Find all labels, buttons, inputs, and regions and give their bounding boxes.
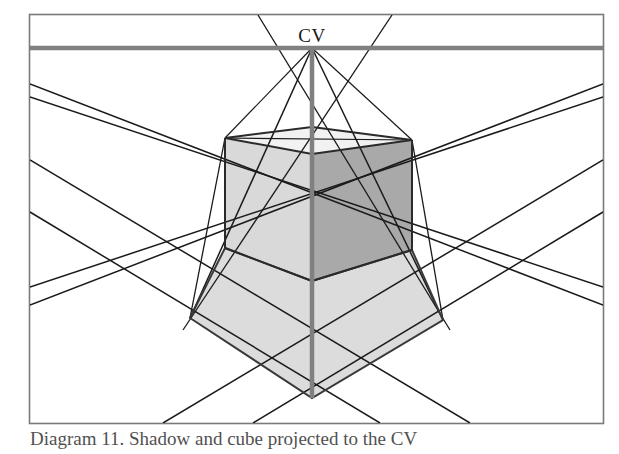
- figure-caption-strip: Diagram 11. Shadow and cube projected to…: [0, 432, 619, 454]
- perspective-diagram-svg: CV: [0, 0, 619, 454]
- perspective-figure: CV Diagram 11. Shadow and cube projected…: [0, 0, 619, 454]
- center-of-vision-label: CV: [298, 25, 325, 46]
- figure-caption: Diagram 11. Shadow and cube projected to…: [30, 432, 417, 450]
